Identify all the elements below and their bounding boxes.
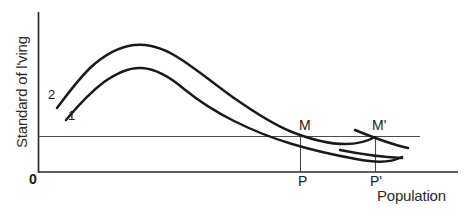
origin-label: 0	[29, 172, 37, 186]
curve-series-1	[66, 68, 402, 162]
annotation-point-M: M	[299, 118, 311, 132]
curve-series-2	[57, 45, 375, 144]
curve-label-1: 1	[68, 109, 75, 122]
x-tick-label-P: P	[298, 174, 307, 188]
curve-label-2: 2	[48, 88, 55, 101]
x-axis-label: Population	[377, 188, 446, 203]
x-tick-label-Pprime: P'	[370, 174, 382, 188]
chart-figure: Standard of l'ving Population 0 2 1 M M'…	[0, 0, 465, 216]
y-axis-label: Standard of l'ving	[14, 8, 36, 148]
annotation-point-Mprime: M'	[372, 118, 386, 132]
